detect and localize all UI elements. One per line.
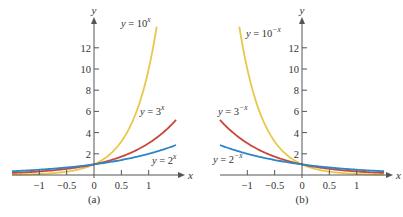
y-tick-label: 8	[294, 85, 299, 96]
panel-label: (b)	[296, 193, 309, 206]
y-tick-label: 4	[294, 128, 300, 139]
y-tick-label: 2	[294, 149, 299, 160]
y-tick-label: 4	[86, 128, 92, 139]
y-tick-label: 10	[289, 64, 300, 75]
y-tick-label: 12	[81, 43, 92, 54]
x-tick-label: −0.5	[265, 180, 284, 191]
y-tick-label: 10	[81, 64, 92, 75]
curve-label: y = 10−x	[245, 25, 281, 39]
panel-label: (a)	[88, 193, 101, 206]
x-axis-arrow-icon	[178, 172, 185, 178]
x-axis-label: x	[395, 169, 401, 181]
y-tick-label: 12	[289, 43, 300, 54]
x-axis-arrow-icon	[386, 172, 393, 178]
curve-label: y = 2x	[151, 152, 177, 166]
x-tick-label: 0	[299, 180, 304, 191]
y-axis-arrow-icon	[299, 17, 305, 24]
y-tick-label: 2	[86, 149, 91, 160]
curve-label: y = 2−x	[212, 151, 243, 165]
curve-label: y = 3−x	[217, 103, 248, 117]
x-tick-label: 0.5	[115, 180, 128, 191]
exponential-functions-figure: y = 10xy = 3xy = 2xxy−1−0.500.5124681012…	[0, 0, 403, 217]
x-tick-label: 1	[354, 180, 359, 191]
curve-label: y = 3x	[139, 103, 165, 117]
curve-label: y = 10x	[120, 15, 151, 29]
y-axis-label: y	[91, 4, 97, 16]
y-axis-label: y	[299, 4, 305, 16]
x-tick-label: −1	[34, 180, 45, 191]
y-tick-label: 8	[86, 85, 91, 96]
y-tick-label: 6	[86, 106, 91, 117]
x-tick-label: 1	[146, 180, 151, 191]
panel-b-decay-curves: y = 10−xy = 3−xy = 2−xxy−1−0.500.5124681…	[212, 4, 401, 206]
x-tick-label: 0	[91, 180, 96, 191]
curve-y-10-x	[239, 27, 384, 175]
panel-a-growth-curves: y = 10xy = 3xy = 2xxy−1−0.500.5124681012…	[12, 4, 193, 206]
y-axis-arrow-icon	[91, 17, 97, 24]
x-tick-label: −0.5	[57, 180, 76, 191]
x-tick-label: 0.5	[323, 180, 336, 191]
x-tick-label: −1	[242, 180, 253, 191]
y-tick-label: 6	[294, 106, 299, 117]
x-axis-label: x	[187, 169, 193, 181]
